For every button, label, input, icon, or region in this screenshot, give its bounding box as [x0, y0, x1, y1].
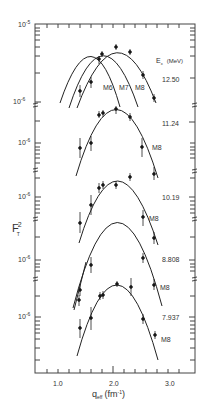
fit-curves [60, 53, 162, 360]
energy-label-10-19: 10.19 [162, 194, 180, 201]
energy-label-11-24: 11.24 [162, 120, 179, 127]
x-tick-1: 1.0 [53, 380, 63, 387]
energy-label-12-50: 12.50 [162, 76, 180, 83]
curve-label-m8-8-808: M8 [160, 284, 170, 291]
y-label-6: 10-6 [18, 311, 30, 320]
curve-label-m8-10-19: M8 [149, 215, 159, 222]
curve-m8-11-24 [76, 109, 158, 178]
bottom-ticks [47, 366, 179, 373]
y-label-2: 10-6 [13, 96, 25, 105]
left-ticks [33, 28, 41, 360]
curve-m8-12-50 [77, 53, 156, 108]
curve-label-m8: M8 [135, 84, 145, 91]
x-axis-title: qeff(fm-1) [92, 389, 125, 400]
right-ticks [189, 28, 197, 360]
curve-m8-8-808 [73, 222, 162, 308]
y-label-5: 10-6 [18, 254, 30, 263]
curve-label-m8-11-24: M8 [152, 144, 162, 151]
legend-header: Ex(MeV) [156, 57, 183, 66]
curve-label-m8-7-937: M8 [161, 336, 171, 343]
y-label-4: 10-6 [18, 191, 30, 200]
x-tick-2: 2.0 [109, 380, 119, 387]
chart: 10-5 10-6 10-6 10-6 10-6 10-6 F2T 1.0 2.… [0, 0, 208, 417]
y-label-top: 10-5 [18, 19, 30, 28]
x-tick-3: 3.0 [165, 380, 175, 387]
y-label-3: 10-6 [18, 137, 30, 146]
top-ticks [47, 24, 179, 28]
curve-m7-12-50 [69, 56, 138, 108]
curve-label-m6: M6 [103, 84, 113, 91]
y-axis-title: F2T [12, 221, 22, 237]
energy-label-7-937: 7.937 [162, 314, 180, 321]
curve-label-m7: M7 [119, 84, 129, 91]
energy-label-8-808: 8.808 [162, 256, 180, 263]
curve-m8-7-937 [77, 285, 158, 360]
